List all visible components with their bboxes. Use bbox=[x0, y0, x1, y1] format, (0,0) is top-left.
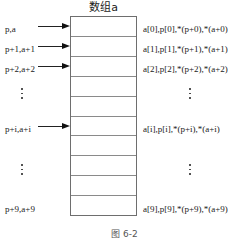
arrow-shaft bbox=[38, 26, 64, 27]
array-cell bbox=[71, 57, 136, 77]
arrow-head-icon bbox=[62, 23, 70, 29]
figure-caption: 图 6-2 bbox=[0, 229, 249, 238]
pointer-arrow-row-5 bbox=[38, 123, 70, 130]
arrow-shaft bbox=[38, 66, 64, 67]
arrow-head-icon bbox=[62, 123, 70, 129]
vertical-ellipsis-right-upper bbox=[184, 85, 196, 102]
array-cell bbox=[71, 156, 136, 176]
arrow-shaft bbox=[38, 126, 64, 127]
arrow-head-icon bbox=[62, 43, 70, 49]
arrow-shaft bbox=[38, 46, 64, 47]
left-label-row-9: p+9,a+9 bbox=[5, 204, 63, 215]
array-box bbox=[70, 16, 137, 216]
array-cell bbox=[71, 37, 136, 57]
pointer-arrow-row-0 bbox=[38, 23, 70, 30]
right-label-row-9: a[9],p[9],*(p+9),*(a+9) bbox=[143, 204, 249, 215]
array-cell bbox=[71, 176, 136, 196]
array-cell bbox=[71, 77, 136, 97]
vertical-ellipsis-right-lower bbox=[184, 161, 196, 178]
vertical-ellipsis-left-upper bbox=[16, 85, 28, 102]
array-title: 数组a bbox=[70, 1, 137, 14]
right-label-row-2: a[2],p[2],*(p+2),*(a+2) bbox=[143, 64, 249, 75]
array-pointer-diagram: 数组a p,a p+1,a+1 p+2,a+2 p+i,a+i p+9,a+9 … bbox=[0, 0, 249, 238]
array-cell bbox=[71, 117, 136, 137]
pointer-arrow-row-1 bbox=[38, 43, 70, 50]
array-cell bbox=[71, 17, 136, 37]
pointer-arrow-row-2 bbox=[38, 63, 70, 70]
right-label-row-5: a[i],p[i],*(p+i),*(a+i) bbox=[143, 124, 249, 135]
arrow-head-icon bbox=[62, 63, 70, 69]
array-cell bbox=[71, 196, 136, 215]
array-cell bbox=[71, 136, 136, 156]
right-label-row-0: a[0],p[0],*(p+0),*(a+0) bbox=[143, 24, 249, 35]
array-cell bbox=[71, 97, 136, 117]
right-label-row-1: a[1],p[1],*(p+1),*(a+1) bbox=[143, 44, 249, 55]
vertical-ellipsis-left-lower bbox=[16, 161, 28, 178]
